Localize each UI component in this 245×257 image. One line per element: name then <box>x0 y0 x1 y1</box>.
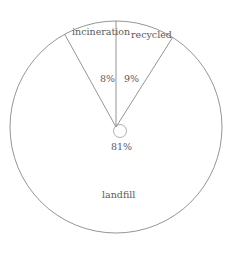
slice-value-incineration: 8% <box>100 74 115 84</box>
slice-label-landfill: landfill <box>102 190 135 200</box>
slice-value-landfill: 81% <box>111 142 132 152</box>
slice-label-incineration: incineration <box>72 27 130 37</box>
slice-value-recycled: 9% <box>124 74 139 84</box>
pie-chart-graphic <box>0 0 245 257</box>
slice-label-recycled: recycled <box>131 30 172 40</box>
pie-chart: incineration recycled 8% 9% 81% landfill <box>0 0 245 257</box>
pie-center-marker <box>114 125 127 138</box>
